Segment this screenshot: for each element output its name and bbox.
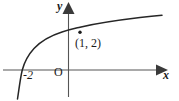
graph-figure: y x O -2 (1, 2) [0,0,179,101]
origin-label: O [54,66,63,78]
point-marker [78,31,81,34]
x-axis-label: x [163,69,169,81]
point-label: (1, 2) [75,37,101,49]
graph-canvas [0,0,179,101]
y-axis-label: y [57,0,62,12]
curve-path [18,15,163,99]
x-intercept-label: -2 [23,69,33,81]
y-axis-arrowhead [63,2,75,14]
